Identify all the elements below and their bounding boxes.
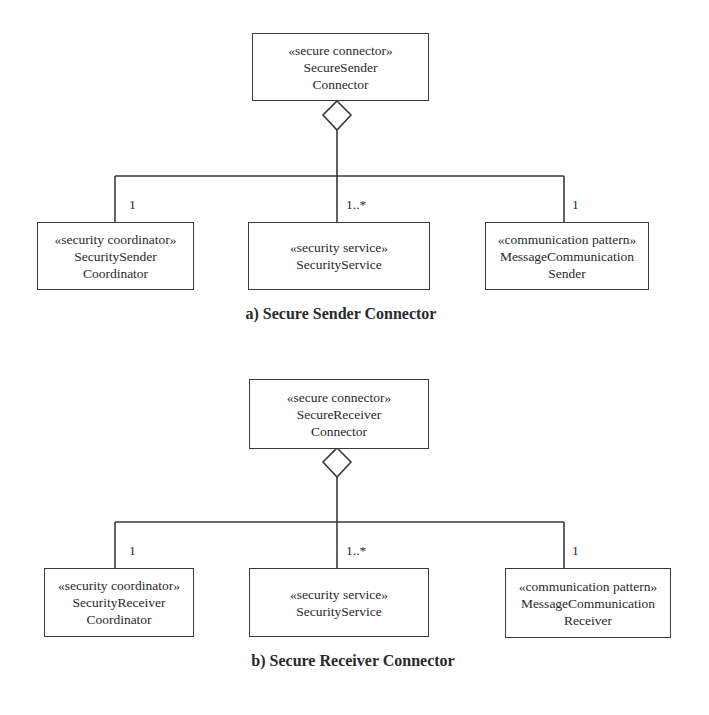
class-name: SecureSender <box>303 59 377 76</box>
multiplicity-label: 1..* <box>346 544 366 558</box>
aggregation-b <box>115 448 564 568</box>
stereotype: «security coordinator» <box>55 231 177 248</box>
stereotype: «secure connector» <box>287 389 392 406</box>
class-name: Receiver <box>564 612 612 629</box>
class-name: SecureReceiver <box>297 406 382 423</box>
class-name: SecuritySender <box>74 248 156 265</box>
security-receiver-coordinator-class: «security coordinator» SecurityReceiver … <box>44 568 194 637</box>
message-communication-receiver-class: «communication pattern» MessageCommunica… <box>505 568 671 638</box>
security-sender-coordinator-class: «security coordinator» SecuritySender Co… <box>37 222 194 290</box>
security-service-class: «security service» SecurityService <box>248 222 430 290</box>
figure-caption-b: b) Secure Receiver Connector <box>222 652 484 670</box>
class-name: Connector <box>312 76 368 93</box>
stereotype: «secure connector» <box>288 42 393 59</box>
class-name: SecurityService <box>296 256 381 273</box>
stereotype: «communication pattern» <box>498 231 636 248</box>
class-name: Coordinator <box>86 611 151 628</box>
stereotype: «security coordinator» <box>58 577 180 594</box>
class-name: Coordinator <box>83 265 148 282</box>
aggregation-diamond-icon <box>323 448 351 477</box>
class-name: Connector <box>311 423 367 440</box>
class-name: MessageCommunication <box>521 595 655 612</box>
multiplicity-label: 1 <box>572 198 579 212</box>
security-service-class: «security service» SecurityService <box>249 568 429 637</box>
multiplicity-label: 1 <box>129 198 136 212</box>
stereotype: «communication pattern» <box>519 578 657 595</box>
class-name: SecurityReceiver <box>73 594 166 611</box>
secure-receiver-connector-class: «secure connector» SecureReceiver Connec… <box>249 379 429 449</box>
class-name: MessageCommunication <box>500 248 634 265</box>
aggregation-a <box>115 101 564 222</box>
class-name: SecurityService <box>296 603 381 620</box>
secure-sender-connector-class: «secure connector» SecureSender Connecto… <box>252 33 429 101</box>
message-communication-sender-class: «communication pattern» MessageCommunica… <box>485 222 649 290</box>
class-name: Sender <box>548 265 586 282</box>
multiplicity-label: 1 <box>572 544 579 558</box>
figure-caption-a: a) Secure Sender Connector <box>229 305 453 323</box>
stereotype: «security service» <box>290 586 388 603</box>
multiplicity-label: 1 <box>129 544 136 558</box>
stereotype: «security service» <box>290 239 388 256</box>
multiplicity-label: 1..* <box>346 198 366 212</box>
aggregation-diamond-icon <box>323 101 351 130</box>
